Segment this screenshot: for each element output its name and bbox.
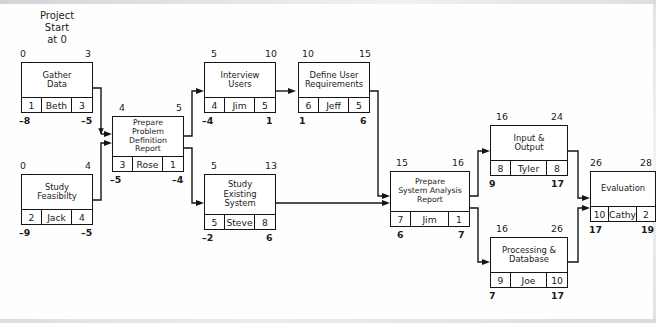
task-name: Study Feasibilty xyxy=(22,175,92,209)
task-node-processing-database[interactable]: Processing & Database 9 Joe 10 xyxy=(490,237,568,288)
task-slack: 2 xyxy=(637,207,655,222)
task-resource: Jack xyxy=(42,210,72,225)
define-user-requirements-early-finish: 15 xyxy=(359,48,371,59)
study-existing-system-early-start: 5 xyxy=(211,160,217,171)
evaluation-early-finish: 28 xyxy=(640,157,652,168)
task-name: Prepare System Analysis Report xyxy=(391,172,469,211)
task-resource: Steve xyxy=(225,215,255,230)
task-duration: 2 xyxy=(22,210,42,225)
edge-define-user-requirements-to-prepare-system-analysis-report xyxy=(370,91,390,199)
task-node-gather-data[interactable]: Gather Data 1 Beth 3 xyxy=(21,62,93,113)
task-duration: 5 xyxy=(205,215,225,230)
study-existing-system-late-start: –2 xyxy=(202,232,213,243)
task-strip: 5 Steve 8 xyxy=(205,214,275,230)
task-slack: 5 xyxy=(349,98,369,113)
diagram-canvas: Project Start at 0 0 3 Gather Data 1 Bet… xyxy=(0,0,656,323)
edge-study-feasibility-to-prepare-problem-definition-report xyxy=(93,140,112,200)
task-duration: 7 xyxy=(391,212,411,227)
task-slack: 4 xyxy=(72,210,92,225)
study-feasibility-early-start: 0 xyxy=(20,160,26,171)
prepare-system-analysis-report-late-finish: 7 xyxy=(458,229,465,240)
task-name: Interview Users xyxy=(205,63,275,97)
task-node-prepare-system-analysis-report[interactable]: Prepare System Analysis Report 7 Jim 1 xyxy=(390,171,470,227)
task-slack: 8 xyxy=(255,215,275,230)
edge-prepare-system-analysis-report-to-input-output xyxy=(470,148,490,196)
define-user-requirements-late-finish: 6 xyxy=(360,115,367,126)
task-node-study-existing-system[interactable]: Study Existing System 5 Steve 8 xyxy=(204,174,276,230)
study-existing-system-late-finish: 6 xyxy=(266,232,273,243)
interview-users-early-finish: 10 xyxy=(265,48,277,59)
edge-study-existing-system-to-prepare-system-analysis-report xyxy=(276,200,390,206)
interview-users-early-start: 5 xyxy=(211,48,217,59)
task-node-prepare-problem-definition-report[interactable]: Prepare Problem Definition Report 3 Rose… xyxy=(112,116,184,172)
task-name: Input & Output xyxy=(491,126,567,160)
task-node-evaluation[interactable]: Evaluation 10 Cathy 2 xyxy=(590,171,656,222)
task-slack: 5 xyxy=(255,98,275,113)
task-resource: Beth xyxy=(42,98,72,113)
input-output-late-start: 9 xyxy=(489,178,496,189)
task-node-input-output[interactable]: Input & Output 8 Tyler 8 xyxy=(490,125,568,176)
study-feasibility-late-finish: –5 xyxy=(81,227,92,238)
edge-interview-users-to-define-user-requirements xyxy=(276,88,296,94)
task-strip: 6 Jeff 5 xyxy=(299,97,369,113)
task-duration: 1 xyxy=(22,98,42,113)
task-name: Gather Data xyxy=(22,63,92,97)
evaluation-late-start: 17 xyxy=(589,224,602,235)
project-start-caption: Project Start at 0 xyxy=(21,10,93,45)
interview-users-late-start: –4 xyxy=(202,115,213,126)
gather-data-late-finish: –5 xyxy=(81,115,92,126)
task-slack: 3 xyxy=(72,98,92,113)
interview-users-late-finish: 1 xyxy=(266,115,273,126)
processing-database-early-start: 16 xyxy=(496,223,508,234)
define-user-requirements-early-start: 10 xyxy=(302,48,314,59)
task-resource: Jim xyxy=(225,98,255,113)
task-name: Evaluation xyxy=(591,172,655,206)
task-node-interview-users[interactable]: Interview Users 4 Jim 5 xyxy=(204,62,276,113)
task-name: Processing & Database xyxy=(491,238,567,272)
prepare-problem-definition-report-early-finish: 5 xyxy=(176,102,182,113)
task-slack: 1 xyxy=(163,157,183,172)
input-output-early-start: 16 xyxy=(496,111,508,122)
task-resource: Jeff xyxy=(319,98,349,113)
task-strip: 10 Cathy 2 xyxy=(591,206,655,222)
task-strip: 2 Jack 4 xyxy=(22,209,92,225)
task-duration: 3 xyxy=(113,157,133,172)
define-user-requirements-late-start: 1 xyxy=(299,115,306,126)
task-resource: Rose xyxy=(133,157,163,172)
evaluation-late-finish: 19 xyxy=(641,224,654,235)
edge-prepare-problem-definition-report-to-interview-users xyxy=(184,88,204,136)
task-strip: 9 Joe 10 xyxy=(491,272,567,288)
prepare-problem-definition-report-early-start: 4 xyxy=(119,102,125,113)
edge-gather-data-to-prepare-problem-definition-report xyxy=(93,88,112,137)
prepare-system-analysis-report-early-start: 15 xyxy=(396,157,408,168)
task-name: Study Existing System xyxy=(205,175,275,214)
task-strip: 8 Tyler 8 xyxy=(491,160,567,176)
task-resource: Cathy xyxy=(609,207,637,222)
prepare-problem-definition-report-late-finish: –4 xyxy=(172,174,183,185)
study-existing-system-early-finish: 13 xyxy=(265,160,277,171)
task-name: Prepare Problem Definition Report xyxy=(113,117,183,156)
task-duration: 8 xyxy=(491,161,511,176)
processing-database-late-start: 7 xyxy=(489,290,496,301)
task-duration: 4 xyxy=(205,98,225,113)
task-node-define-user-requirements[interactable]: Define User Requirements 6 Jeff 5 xyxy=(298,62,370,113)
task-slack: 8 xyxy=(547,161,567,176)
task-duration: 10 xyxy=(591,207,609,222)
edge-input-output-to-evaluation xyxy=(568,151,590,201)
task-slack: 10 xyxy=(547,273,567,288)
task-resource: Tyler xyxy=(511,161,547,176)
gather-data-early-finish: 3 xyxy=(85,48,91,59)
task-resource: Jim xyxy=(411,212,449,227)
task-strip: 7 Jim 1 xyxy=(391,211,469,227)
evaluation-early-start: 26 xyxy=(590,157,602,168)
input-output-late-finish: 17 xyxy=(551,178,564,189)
task-node-study-feasibility[interactable]: Study Feasibilty 2 Jack 4 xyxy=(21,174,93,225)
processing-database-late-finish: 17 xyxy=(551,290,564,301)
task-duration: 9 xyxy=(491,273,511,288)
input-output-early-finish: 24 xyxy=(551,111,563,122)
task-duration: 6 xyxy=(299,98,319,113)
task-resource: Joe xyxy=(511,273,547,288)
task-strip: 3 Rose 1 xyxy=(113,156,183,172)
edge-prepare-system-analysis-report-to-processing-database xyxy=(470,208,490,265)
task-strip: 4 Jim 5 xyxy=(205,97,275,113)
